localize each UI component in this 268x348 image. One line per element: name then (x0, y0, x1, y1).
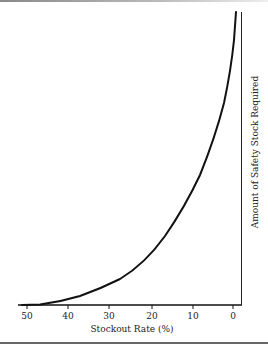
x-tick-labels: 50 40 30 20 10 0 (21, 311, 236, 321)
chart: 50 40 30 20 10 0 Stockout Rate (%) Amoun… (0, 0, 268, 348)
x-tick-label: 0 (230, 311, 236, 321)
x-tick-label: 40 (62, 311, 74, 321)
safety-stock-curve (22, 12, 236, 305)
x-tick-label: 20 (146, 311, 158, 321)
x-tick-label: 50 (21, 311, 33, 321)
x-tick-label: 30 (103, 311, 115, 321)
y-axis-title: Amount of Safety Stock Required (250, 76, 260, 230)
x-axis-title: Stockout Rate (%) (90, 324, 173, 334)
x-tick-label: 10 (187, 311, 199, 321)
bottom-rule (0, 342, 268, 344)
